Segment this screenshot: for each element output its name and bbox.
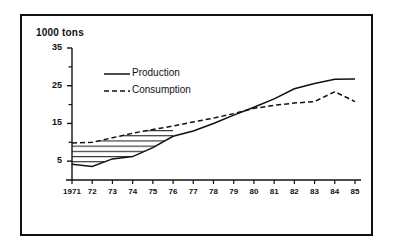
y-axis-tick-label: 15 bbox=[42, 117, 62, 127]
x-axis-tick-label: 72 bbox=[88, 187, 97, 196]
x-axis-tick-label: 84 bbox=[330, 187, 339, 196]
legend-label-production: Production bbox=[132, 67, 180, 78]
x-axis-tick-label: 74 bbox=[128, 187, 137, 196]
y-axis-tick-label: 5 bbox=[42, 155, 62, 165]
y-axis-tick-label: 35 bbox=[42, 42, 62, 52]
x-axis-tick-label: 79 bbox=[229, 187, 238, 196]
x-axis-tick-label: 75 bbox=[148, 187, 157, 196]
x-axis-tick-label: 76 bbox=[169, 187, 178, 196]
x-axis-tick-label: 80 bbox=[249, 187, 258, 196]
legend bbox=[104, 74, 130, 91]
legend-label-consumption: Consumption bbox=[132, 84, 191, 95]
axes-group bbox=[66, 48, 361, 184]
chart-figure: 1000 tons 5152535 1971727 bbox=[0, 0, 393, 250]
y-axis-tick-label: 25 bbox=[42, 80, 62, 90]
x-axis-tick-label: 78 bbox=[209, 187, 218, 196]
x-axis-tick-label: 82 bbox=[290, 187, 299, 196]
series-line-consumption bbox=[72, 92, 355, 143]
y-axis-ticks bbox=[67, 48, 72, 161]
x-axis-tick-label: 77 bbox=[189, 187, 198, 196]
x-axis-tick-label: 73 bbox=[108, 187, 117, 196]
x-axis-tick-label: 83 bbox=[310, 187, 319, 196]
x-axis-tick-label: 81 bbox=[270, 187, 279, 196]
production-consumption-gap-band bbox=[72, 126, 173, 166]
x-axis-tick-label: 1971 bbox=[63, 187, 81, 196]
x-axis-tick-label: 85 bbox=[351, 187, 360, 196]
